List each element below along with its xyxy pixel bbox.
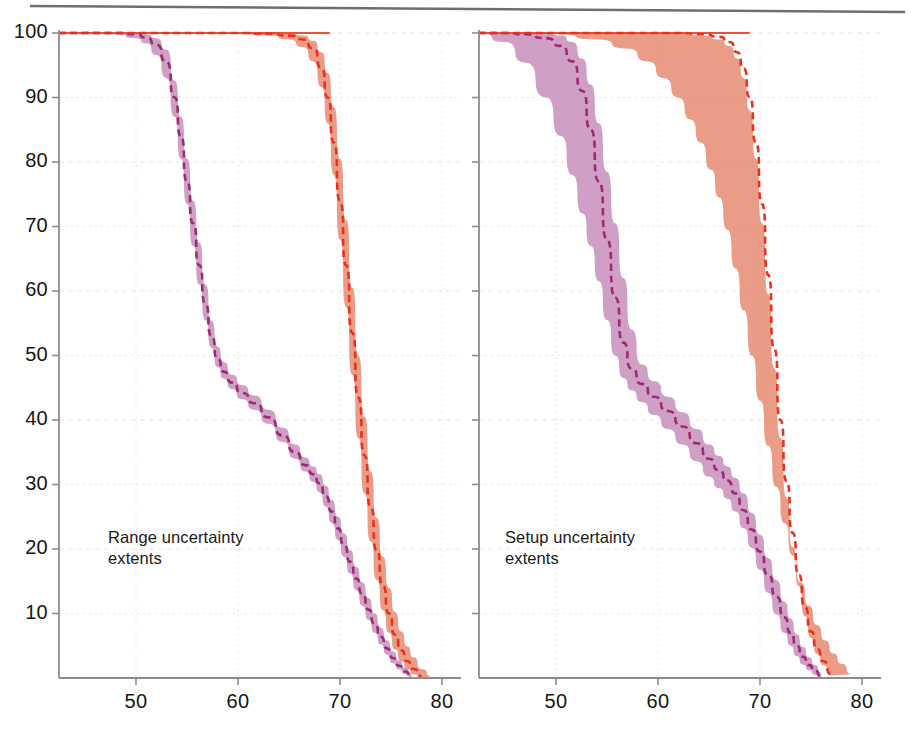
y-tick-label: 60 [0, 278, 48, 301]
y-tick-label: 80 [0, 149, 48, 172]
figure-root: 100908070605040302010 50607080 50607080 … [0, 0, 911, 740]
panel-right-annotation: Setup uncertainty extents [505, 527, 635, 569]
panel-left-grid [59, 33, 461, 678]
panel-right-grid [479, 33, 881, 678]
x-tick-label: 60 [208, 690, 268, 713]
y-tick-label: 70 [0, 214, 48, 237]
x-tick-label: 50 [106, 690, 166, 713]
x-tick-label: 80 [832, 690, 892, 713]
dvh-figure [0, 0, 911, 740]
x-tick-label: 80 [412, 690, 472, 713]
y-tick-label: 50 [0, 343, 48, 366]
x-tick-label: 70 [730, 690, 790, 713]
x-tick-label: 70 [310, 690, 370, 713]
x-tick-label: 60 [628, 690, 688, 713]
y-tick-label: 100 [0, 20, 48, 43]
y-tick-label: 40 [0, 407, 48, 430]
panel-left-axes [52, 30, 461, 685]
panel-left-annotation: Range uncertainty extents [108, 527, 244, 569]
y-tick-label: 10 [0, 601, 48, 624]
y-tick-label: 90 [0, 85, 48, 108]
panel-right-axes [472, 30, 881, 685]
x-tick-label: 50 [526, 690, 586, 713]
y-tick-label: 30 [0, 472, 48, 495]
y-tick-label: 20 [0, 536, 48, 559]
